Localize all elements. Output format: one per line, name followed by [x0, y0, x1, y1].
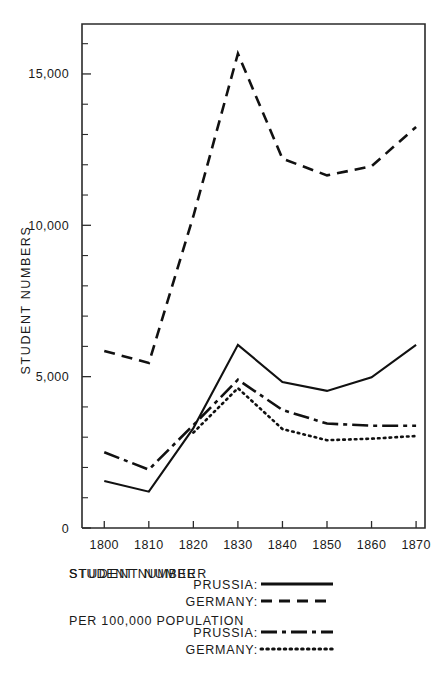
y-tick-label: 5,000 [36, 370, 69, 384]
x-tick-label: 1830 [223, 538, 252, 552]
x-tick-label: 1860 [357, 538, 386, 552]
x-tick-label: 1870 [401, 538, 430, 552]
chart-legend: STUDENT NUMBERPRUSSIA:GERMANY:PER 100,00… [69, 567, 333, 657]
plot-frame [82, 24, 425, 528]
legend-label-g2-0: PRUSSIA: [193, 626, 258, 640]
series-line-per-100-000-population-germany [193, 388, 416, 440]
series-line-per-100-000-population-prussia [104, 380, 416, 470]
y-tick-label: 0 [62, 522, 69, 536]
x-tick-label: 1840 [268, 538, 297, 552]
y-tick-label: 10,000 [28, 219, 69, 233]
legend-group-1-title: STUDENT NUMBER [69, 567, 197, 581]
y-tick-label: 15,000 [28, 67, 69, 81]
x-tick-label: 1800 [90, 538, 119, 552]
chart-figure: 05,00010,00015,000 180018101820183018401… [0, 0, 438, 678]
y-axis-title: STUDENT NUMBERS [19, 226, 33, 375]
series-line-student-number-germany [104, 54, 416, 363]
data-series-layer [104, 54, 416, 492]
x-tick-label: 1850 [312, 538, 341, 552]
legend-label-g2-1: GERMANY: [186, 643, 258, 657]
legend-label-g1-1: GERMANY: [186, 595, 258, 609]
x-tick-label: 1810 [134, 538, 163, 552]
x-axis-ticks: 18001810182018301840185018601870 [90, 521, 431, 552]
series-line-student-number-prussia [104, 345, 416, 492]
x-tick-label: 1820 [179, 538, 208, 552]
plot-border [82, 24, 425, 528]
legend-label-g1-0: PRUSSIA: [193, 578, 258, 592]
